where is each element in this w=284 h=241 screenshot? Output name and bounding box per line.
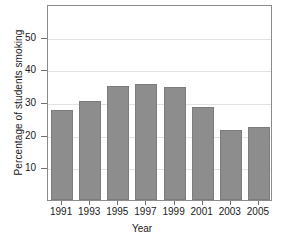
y-tick-label-20: 20 xyxy=(0,131,36,141)
y-tick-label-50: 50 xyxy=(0,33,36,43)
y-tick-label-30: 30 xyxy=(0,98,36,108)
x-tick-label-2005: 2005 xyxy=(238,207,278,217)
bar-2001 xyxy=(192,107,214,200)
bar-1999 xyxy=(164,87,186,200)
bar-2003 xyxy=(220,130,242,200)
x-axis-title: Year xyxy=(0,223,284,234)
x-tick-2003 xyxy=(230,201,231,205)
x-tick-2005 xyxy=(258,201,259,205)
bar-2005 xyxy=(248,127,270,201)
y-tick-30 xyxy=(41,103,47,104)
x-tick-1993 xyxy=(89,201,90,205)
y-tick-20 xyxy=(41,136,47,137)
bar-1993 xyxy=(79,101,101,200)
x-tick-1997 xyxy=(145,201,146,205)
x-tick-1999 xyxy=(174,201,175,205)
bar-1995 xyxy=(107,86,129,200)
y-tick-50 xyxy=(41,38,47,39)
x-tick-1991 xyxy=(61,201,62,205)
bars-group xyxy=(48,6,271,200)
bar-chart: Percentage of students smoking 102030405… xyxy=(0,0,284,241)
x-tick-2001 xyxy=(202,201,203,205)
bar-1991 xyxy=(51,110,73,200)
y-tick-label-40: 40 xyxy=(0,65,36,75)
y-tick-40 xyxy=(41,70,47,71)
plot-area xyxy=(47,5,272,201)
y-tick-10 xyxy=(41,168,47,169)
x-tick-1995 xyxy=(117,201,118,205)
y-tick-label-10: 10 xyxy=(0,163,36,173)
bar-1997 xyxy=(135,84,157,200)
